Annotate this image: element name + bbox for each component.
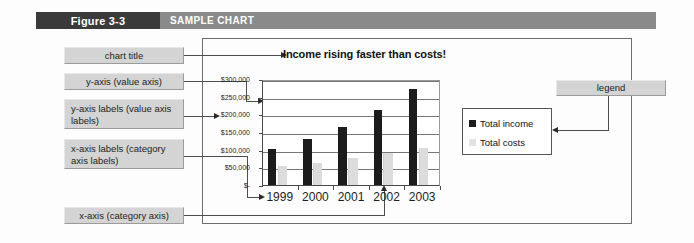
bar-group — [263, 81, 298, 185]
callout-x-axis-labels-label: x-axis labels (category axis labels) — [71, 143, 177, 167]
legend-label-costs: Total costs — [480, 137, 525, 148]
bar-group — [298, 81, 333, 185]
bar-costs — [383, 153, 392, 185]
bar-income — [303, 139, 311, 185]
x-axis-tick-label: 2001 — [331, 190, 371, 204]
legend-entry-total-costs: Total costs — [469, 137, 525, 148]
figure-canvas: Figure 3-3 SAMPLE CHART chart title y-ax… — [0, 0, 694, 243]
leader-arrow-legend — [552, 127, 558, 133]
callout-x-axis-labels[interactable]: x-axis labels (category axis labels) — [64, 139, 184, 169]
y-axis-tick-mark — [259, 186, 263, 187]
legend-label-income: Total income — [480, 118, 533, 129]
x-axis-tick-label: 2002 — [367, 190, 407, 204]
chart-legend[interactable]: Total income Total costs — [462, 108, 552, 155]
callout-legend[interactable]: legend — [556, 80, 666, 96]
bar-income — [409, 89, 417, 185]
bar-group — [404, 81, 439, 185]
callout-y-axis-label: y-axis (value axis) — [86, 76, 162, 88]
callout-x-axis-label: x-axis (category axis) — [79, 210, 169, 222]
y-axis-tick-label: $250,000 — [200, 94, 250, 101]
x-axis-tick-mark — [440, 186, 441, 190]
leader-line-x-axis-h — [184, 215, 385, 216]
callout-y-axis-labels-label: y-axis labels (value axis labels) — [71, 103, 177, 127]
leader-line-chart-title — [184, 55, 283, 56]
callout-x-axis[interactable]: x-axis (category axis) — [64, 207, 184, 224]
y-axis-tick-label: $100,000 — [200, 147, 250, 154]
y-axis-tick-label: $50,000 — [200, 164, 250, 171]
bar-costs — [278, 166, 287, 185]
bar-income — [338, 127, 346, 185]
callout-y-axis-labels[interactable]: y-axis labels (value axis labels) — [64, 99, 184, 129]
callout-legend-label: legend — [597, 82, 626, 94]
bar-costs — [313, 163, 322, 185]
legend-entry-total-income: Total income — [469, 118, 533, 129]
x-axis-tick-label: 2000 — [295, 190, 335, 204]
bar-costs — [348, 158, 357, 185]
legend-swatch-income — [469, 120, 476, 127]
bar-groups — [263, 81, 439, 185]
bar-group — [333, 81, 368, 185]
bar-group — [369, 81, 404, 185]
callout-chart-title[interactable]: chart title — [64, 47, 184, 64]
x-axis-tick-label: 1999 — [260, 190, 300, 204]
y-axis-tick-label: $200,000 — [200, 111, 250, 118]
legend-swatch-costs — [469, 139, 476, 146]
y-axis-tick-label: $- — [200, 182, 250, 189]
figure-number: Figure 3-3 — [36, 12, 160, 29]
leader-line-legend-h — [558, 130, 609, 131]
figure-title: SAMPLE CHART — [170, 12, 254, 29]
leader-line-legend-v — [608, 96, 609, 131]
figure-header-bar: Figure 3-3 SAMPLE CHART — [36, 12, 656, 29]
plot-area — [262, 80, 440, 186]
leader-line-x-axis-labels-h1 — [184, 156, 248, 157]
y-axis-tick-label: $150,000 — [200, 129, 250, 136]
leader-line-x-axis-labels-v — [247, 156, 248, 198]
bar-income — [268, 149, 276, 185]
callout-y-axis[interactable]: y-axis (value axis) — [64, 73, 184, 90]
bar-costs — [419, 148, 428, 185]
chart-title: Income rising faster than costs! — [283, 48, 446, 60]
bar-income — [374, 110, 382, 185]
y-axis-tick-label: $300,000 — [200, 76, 250, 83]
callout-chart-title-label: chart title — [105, 50, 144, 62]
x-axis-tick-label: 2003 — [402, 190, 442, 204]
